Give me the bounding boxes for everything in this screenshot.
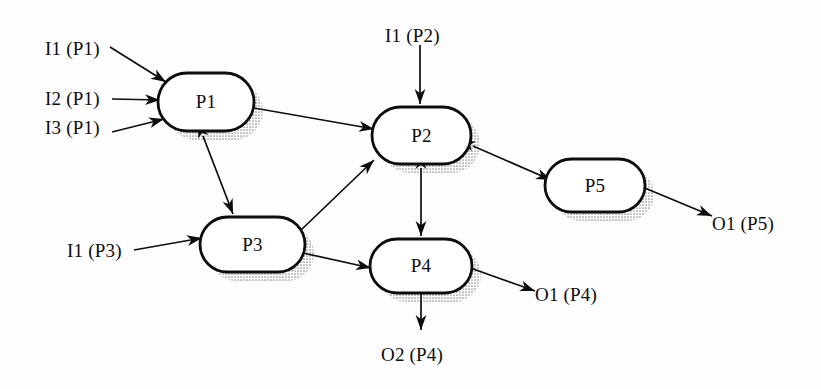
node-p5-shape[interactable] (545, 159, 645, 212)
node-p4-shape[interactable] (370, 239, 472, 293)
process-nodes (158, 73, 645, 293)
node-p3-shape[interactable] (200, 217, 305, 272)
edge-p2-p5 (473, 146, 551, 180)
node-p1-shape[interactable] (158, 73, 254, 131)
arrow-input-i2p1 (112, 99, 160, 100)
arrow-input-i3p1 (112, 119, 164, 132)
output-label-o1-p4: O1 (P4) (535, 284, 597, 306)
input-label-i1-p2: I1 (P2) (385, 25, 440, 47)
output-label-o1-p5: O1 (P5) (712, 213, 774, 235)
input-label-i1-p1: I1 (P1) (45, 38, 100, 60)
arrow-input-i1p1 (110, 47, 166, 82)
output-label-o2-p4: O2 (P4) (381, 344, 443, 366)
diagram-canvas: P1 P2 P3 P4 P5 I1 (P1) I2 (P1) I3 (P1) I… (0, 0, 821, 389)
input-label-i1-p3: I1 (P3) (67, 240, 122, 262)
edge-p3-p2 (300, 160, 374, 231)
input-label-i3-p1: I3 (P1) (45, 117, 100, 139)
arrow-input-i1p3 (134, 238, 202, 250)
diagram-vector-layer (0, 0, 821, 389)
edge-p1-p2 (254, 108, 374, 129)
edge-p1-p3 (203, 136, 233, 214)
node-p2-shape[interactable] (372, 107, 471, 164)
input-label-i2-p1: I2 (P1) (45, 88, 100, 110)
edge-p3-p4 (303, 253, 371, 268)
